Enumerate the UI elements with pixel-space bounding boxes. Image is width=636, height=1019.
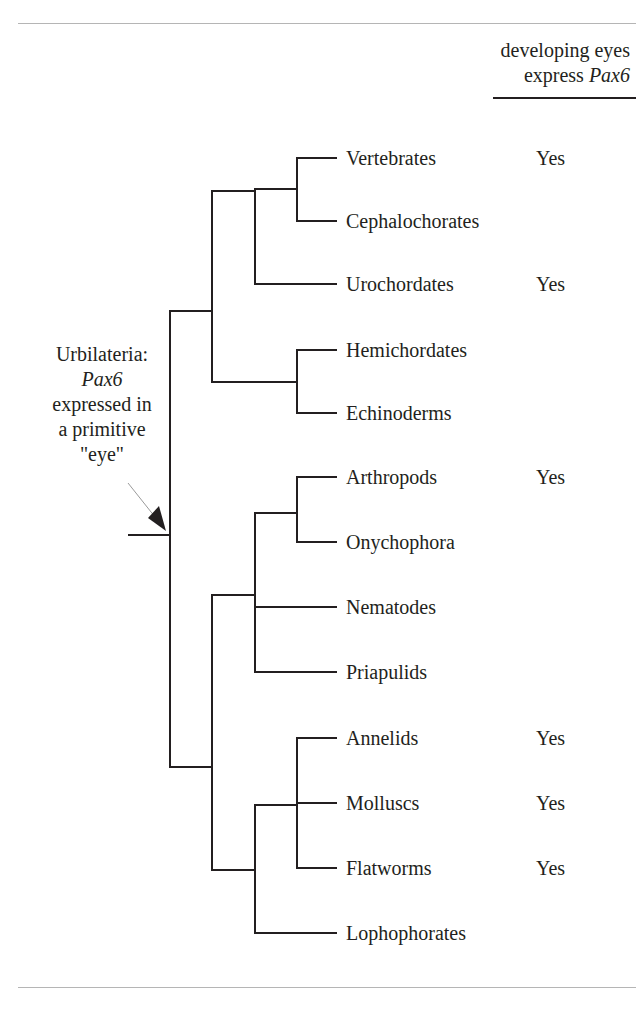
- taxon-label: Priapulids: [346, 660, 427, 684]
- taxon-label: Flatworms: [346, 856, 432, 880]
- taxon-label: Molluscs: [346, 791, 419, 815]
- pax6-value: Yes: [536, 146, 565, 170]
- taxon-label: Urochordates: [346, 272, 454, 296]
- taxon-label: Nematodes: [346, 595, 436, 619]
- taxon-label: Lophophorates: [346, 921, 466, 945]
- taxon-label: Arthropods: [346, 465, 437, 489]
- taxon-label: Cephalochorates: [346, 209, 479, 233]
- taxon-label: Echinoderms: [346, 401, 452, 425]
- arrowhead-icon: [148, 506, 166, 531]
- taxon-label: Vertebrates: [346, 146, 436, 170]
- taxon-label: Annelids: [346, 726, 418, 750]
- pax6-value: Yes: [536, 726, 565, 750]
- pax6-value: Yes: [536, 856, 565, 880]
- pax6-value: Yes: [536, 465, 565, 489]
- taxon-label: Hemichordates: [346, 338, 467, 362]
- pax6-value: Yes: [536, 791, 565, 815]
- taxon-label: Onychophora: [346, 530, 455, 554]
- pax6-value: Yes: [536, 272, 565, 296]
